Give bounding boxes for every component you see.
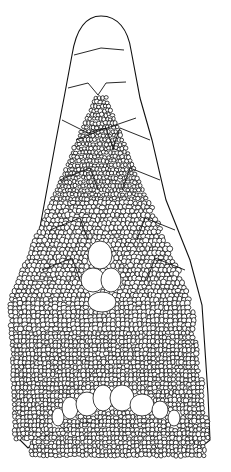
- scale-pattern-illustration: [0, 0, 231, 472]
- illustration-svg: [0, 0, 231, 472]
